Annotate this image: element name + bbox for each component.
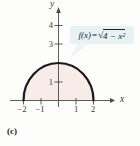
y-axis-arrow [56, 7, 61, 13]
formula-exponent: 2 [122, 31, 125, 38]
x-tick-label-neg1: −1 [33, 105, 47, 114]
semicircle-plot [0, 0, 140, 146]
formula-callout: f(x) = √ 4 − x2 [70, 26, 134, 44]
formula-equals: = [92, 30, 97, 40]
x-tick-label-1: 1 [69, 105, 83, 114]
x-tick-label-2: 2 [86, 105, 100, 114]
panel-label: (c) [7, 127, 17, 136]
figure-panel-c: y x −2 −1 1 2 1 3 4 f(x) = √ 4 − x2 (c) [0, 0, 140, 146]
y-tick-label-3: 3 [43, 40, 53, 49]
formula-radicand: 4 − x [103, 31, 122, 41]
callout-tail [69, 44, 89, 60]
x-axis-arrow [110, 98, 115, 103]
y-tick-label-1: 1 [43, 78, 53, 87]
x-axis-label: x [120, 95, 124, 105]
formula-lhs: f(x) [79, 30, 92, 40]
radicand-group: 4 − x2 [103, 29, 125, 41]
y-tick-label-4: 4 [43, 21, 53, 30]
y-axis-label: y [50, 0, 54, 10]
x-tick-label-neg2: −2 [15, 105, 29, 114]
